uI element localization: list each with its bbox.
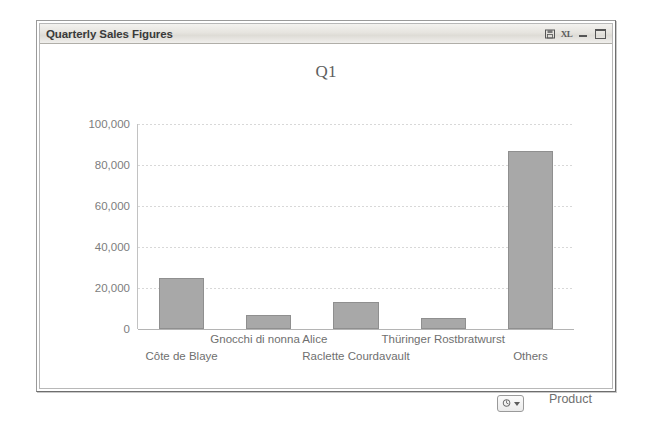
bar[interactable] — [159, 278, 204, 329]
window-titlebar[interactable]: Quarterly Sales Figures XL — [40, 24, 612, 44]
x-axis-tick-label: Thüringer Rostbratwurst — [382, 333, 505, 345]
y-axis-tick-label: 60,000 — [95, 200, 130, 212]
minimize-button[interactable] — [577, 27, 590, 40]
window-inner-frame: Quarterly Sales Figures XL Q1 — [39, 23, 613, 389]
maximize-glyph — [595, 29, 606, 39]
maximize-button[interactable] — [594, 27, 607, 40]
chart-tools-icon — [502, 398, 513, 409]
titlebar-button-group: XL — [543, 27, 609, 40]
x-axis-title: Product — [549, 392, 592, 406]
chart-tools-dropdown-button[interactable] — [497, 395, 524, 412]
bar[interactable] — [246, 315, 291, 329]
x-axis-tick-label: Gnocchi di nonna Alice — [210, 333, 327, 345]
print-preview-icon[interactable] — [543, 27, 556, 40]
bar[interactable] — [508, 151, 553, 329]
y-axis-tick-label: 80,000 — [95, 159, 130, 171]
bar[interactable] — [333, 302, 378, 329]
x-axis-tick-label: Others — [513, 350, 548, 362]
bar[interactable] — [421, 318, 466, 329]
bar-series — [138, 124, 574, 329]
plot-area: 020,00040,00060,00080,000100,000 — [138, 124, 574, 329]
export-excel-icon[interactable]: XL — [560, 27, 573, 40]
y-axis-tick-label: 20,000 — [95, 282, 130, 294]
y-axis-tick-label: 40,000 — [95, 241, 130, 253]
chart-window: Quarterly Sales Figures XL Q1 — [36, 20, 616, 392]
chart-canvas: Q1 020,00040,00060,00080,000100,000 Côte… — [40, 44, 612, 388]
chevron-down-icon — [514, 402, 520, 406]
y-axis-tick-label: 100,000 — [88, 118, 130, 130]
x-axis-tick-label: Raclette Courdavault — [302, 350, 409, 362]
chart-title: Q1 — [40, 62, 612, 82]
window-title: Quarterly Sales Figures — [46, 28, 173, 40]
y-axis-tick-label: 0 — [124, 323, 130, 335]
x-axis-labels: Côte de BlayeGnocchi di nonna AliceRacle… — [138, 330, 574, 376]
x-axis-tick-label: Côte de Blaye — [145, 350, 217, 362]
